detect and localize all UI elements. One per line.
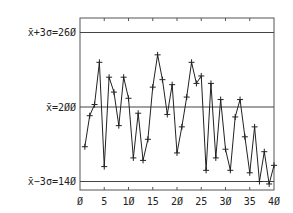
data-markers xyxy=(82,52,277,187)
x-tick-label: 4Ø xyxy=(268,196,280,207)
plus-marker xyxy=(223,146,229,152)
x-tick-label: 35 xyxy=(244,196,256,207)
plus-marker xyxy=(106,74,112,80)
plus-marker xyxy=(82,144,88,150)
plus-marker xyxy=(169,82,175,88)
plus-marker xyxy=(140,157,146,163)
plus-marker xyxy=(184,94,190,100)
plus-marker xyxy=(164,111,170,117)
lcl-label: x̄−3σ=14Ø xyxy=(28,176,76,187)
plus-marker xyxy=(193,80,199,86)
plus-marker xyxy=(252,124,258,130)
plus-marker xyxy=(135,110,141,116)
plus-marker xyxy=(247,170,253,176)
plus-marker xyxy=(145,136,151,142)
plus-marker xyxy=(155,52,161,58)
plus-marker xyxy=(179,124,185,130)
plus-marker xyxy=(121,74,127,80)
plus-marker xyxy=(242,134,248,140)
plus-marker xyxy=(116,123,122,129)
plus-marker xyxy=(101,164,107,170)
x-tick-label: 25 xyxy=(195,196,207,207)
plus-marker xyxy=(96,59,102,65)
plus-marker xyxy=(150,84,156,90)
x-tick-label: 5 xyxy=(101,196,107,207)
plus-marker xyxy=(198,73,204,79)
plus-marker xyxy=(261,149,267,155)
x-tick-labels: Ø51Ø152Ø253Ø354Ø xyxy=(77,196,280,207)
plus-marker xyxy=(208,80,214,86)
plus-marker xyxy=(237,97,243,103)
plus-marker xyxy=(232,114,238,120)
ucl-label: x̄+3σ=26Ø xyxy=(28,27,76,38)
plus-marker xyxy=(130,155,136,161)
plus-marker xyxy=(203,167,209,173)
plus-marker xyxy=(87,113,93,119)
x-tick-marks xyxy=(104,18,250,190)
plus-marker xyxy=(126,95,132,101)
data-series-line xyxy=(85,55,274,184)
x-tick-label: 1Ø xyxy=(122,196,134,207)
plus-marker xyxy=(256,179,262,185)
control-lines xyxy=(80,33,274,182)
control-chart: x̄+3σ=26Ø x̄=2ØØ x̄−3σ=14Ø Ø51Ø152Ø253Ø3… xyxy=(0,0,293,213)
plus-marker xyxy=(159,77,165,83)
x-tick-label: 15 xyxy=(147,196,159,207)
plus-marker xyxy=(189,59,195,65)
plus-marker xyxy=(227,167,233,173)
x-tick-label: Ø xyxy=(77,196,83,207)
plus-marker xyxy=(271,162,277,168)
plus-marker xyxy=(218,97,224,103)
plus-marker xyxy=(174,150,180,156)
plus-marker xyxy=(111,89,117,95)
x-tick-label: 2Ø xyxy=(171,196,183,207)
plot-frame xyxy=(80,18,274,190)
center-line-label: x̄=2ØØ xyxy=(46,102,76,113)
plus-marker xyxy=(213,155,219,161)
x-tick-label: 3Ø xyxy=(219,196,231,207)
